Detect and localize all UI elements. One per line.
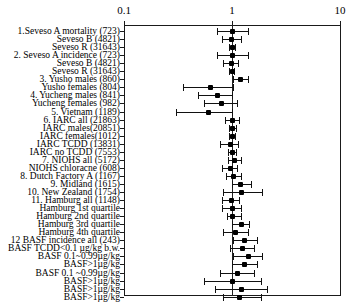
- ci-upper-cap: [249, 221, 250, 228]
- ci-upper-cap: [236, 125, 237, 132]
- forest-row-axis-tick: [120, 39, 124, 40]
- ci-lower-cap: [204, 278, 205, 285]
- ci-upper-cap: [254, 270, 255, 277]
- forest-row-axis-tick: [120, 168, 124, 169]
- effect-estimate-marker: [242, 262, 247, 267]
- forest-row-axis-tick: [120, 192, 124, 193]
- confidence-interval-line: [176, 112, 232, 113]
- ci-upper-cap: [239, 197, 240, 204]
- forest-row-axis-tick: [120, 273, 124, 274]
- ci-lower-cap: [220, 270, 221, 277]
- forest-row-axis-tick: [120, 232, 124, 233]
- forest-row-axis-tick: [120, 120, 124, 121]
- effect-estimate-marker: [230, 206, 235, 211]
- ci-upper-cap: [235, 133, 236, 140]
- forest-row-axis-tick: [120, 240, 124, 241]
- forest-row-axis-tick: [120, 87, 124, 88]
- forest-row-axis-tick: [120, 95, 124, 96]
- effect-estimate-marker: [230, 29, 235, 34]
- forest-row-axis-tick: [120, 256, 124, 257]
- ci-lower-cap: [217, 28, 218, 35]
- ci-upper-cap: [241, 36, 242, 43]
- ci-lower-cap: [183, 84, 184, 91]
- effect-estimate-marker: [233, 230, 238, 235]
- ci-upper-cap: [261, 294, 262, 301]
- forest-row-axis-tick: [120, 128, 124, 129]
- forest-row-axis-tick: [120, 160, 124, 161]
- ci-upper-cap: [248, 52, 249, 59]
- forest-row-axis-tick: [120, 216, 124, 217]
- ci-lower-cap: [232, 181, 233, 188]
- effect-estimate-marker: [229, 198, 234, 203]
- ci-upper-cap: [248, 76, 249, 83]
- effect-estimate-marker: [219, 101, 224, 106]
- effect-estimate-marker: [229, 37, 234, 42]
- ci-upper-cap: [239, 117, 240, 124]
- forest-row-axis-tick: [120, 144, 124, 145]
- effect-estimate-marker: [238, 182, 243, 187]
- effect-estimate-marker: [246, 254, 251, 259]
- ci-upper-cap: [261, 278, 262, 285]
- ci-lower-cap: [228, 157, 229, 164]
- ci-lower-cap: [230, 245, 231, 252]
- effect-estimate-marker: [230, 279, 235, 284]
- ci-lower-cap: [222, 205, 223, 212]
- confidence-interval-line: [223, 297, 261, 298]
- effect-estimate-marker: [230, 45, 235, 50]
- ci-upper-cap: [232, 109, 233, 116]
- forest-row-axis-tick: [120, 224, 124, 225]
- forest-plot: 0.1 1 10 1.Seveso A mortality (723)Seves…: [0, 0, 352, 304]
- ci-lower-cap: [217, 52, 218, 59]
- forest-row-axis-tick: [120, 31, 124, 32]
- ci-lower-cap: [233, 237, 234, 244]
- forest-row: BASF>1µg/kg: [0, 293, 352, 303]
- effect-estimate-marker: [228, 166, 233, 171]
- ci-upper-cap: [235, 44, 236, 51]
- forest-row-axis-tick: [120, 248, 124, 249]
- axis-tick-0.1: [124, 21, 125, 26]
- ci-upper-cap: [241, 205, 242, 212]
- ci-upper-cap: [241, 173, 242, 180]
- ci-upper-cap: [238, 141, 239, 148]
- ci-upper-cap: [248, 28, 249, 35]
- effect-estimate-marker: [238, 77, 243, 82]
- effect-estimate-marker: [229, 61, 234, 66]
- effect-estimate-marker: [239, 222, 244, 227]
- ci-lower-cap: [226, 173, 227, 180]
- forest-row-axis-tick: [120, 103, 124, 104]
- forest-row-axis-tick: [120, 208, 124, 209]
- ci-upper-cap: [262, 253, 263, 260]
- effect-estimate-marker: [230, 214, 235, 219]
- forest-row-axis-tick: [120, 176, 124, 177]
- ci-upper-cap: [232, 92, 233, 99]
- ci-upper-cap: [251, 181, 252, 188]
- forest-row-axis-tick: [120, 297, 124, 298]
- ci-upper-cap: [237, 100, 238, 107]
- ci-lower-cap: [176, 109, 177, 116]
- axis-tick-label-mid: 1: [229, 5, 235, 16]
- ci-upper-cap: [262, 189, 263, 196]
- forest-row-axis-tick: [120, 281, 124, 282]
- forest-row-axis-tick: [120, 200, 124, 201]
- effect-estimate-marker: [237, 295, 242, 300]
- effect-estimate-marker: [230, 126, 235, 131]
- ci-upper-cap: [237, 165, 238, 172]
- forest-row-label: BASF>1µg/kg: [64, 292, 120, 302]
- effect-estimate-marker: [240, 246, 245, 251]
- ci-lower-cap: [215, 286, 216, 293]
- forest-row-axis-tick: [120, 71, 124, 72]
- effect-estimate-marker: [235, 271, 240, 276]
- effect-estimate-marker: [231, 174, 236, 179]
- ci-lower-cap: [223, 60, 224, 67]
- effect-estimate-marker: [230, 53, 235, 58]
- ci-upper-cap: [257, 261, 258, 268]
- ci-upper-cap: [236, 149, 237, 156]
- ci-upper-cap: [248, 229, 249, 236]
- ci-lower-cap: [220, 141, 221, 148]
- ci-lower-cap: [232, 261, 233, 268]
- ci-upper-cap: [241, 157, 242, 164]
- forest-row-axis-tick: [120, 136, 124, 137]
- forest-row-axis-tick: [120, 289, 124, 290]
- axis-tick-label-low: 0.1: [117, 5, 131, 16]
- forest-row-axis-tick: [120, 63, 124, 64]
